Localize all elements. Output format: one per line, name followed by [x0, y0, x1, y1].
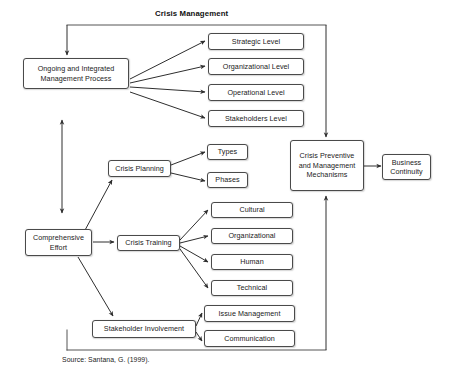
arrow-planning-to-types — [171, 152, 205, 165]
arrow-comprehensive-to-planning — [84, 180, 112, 232]
arrow-ongoing-to-operational — [130, 87, 205, 92]
node-ongoing-process: Ongoing and Integrated Management Proces… — [23, 58, 129, 89]
arrow-planning-to-phases — [171, 173, 205, 181]
arrow-ongoing-to-strategic — [130, 41, 205, 79]
diagram-title: Crisis Management — [155, 9, 228, 18]
node-organizational-level: Organizational Level — [208, 58, 304, 75]
arrow-comprehensive-to-stakeholder — [78, 257, 113, 316]
node-human: Human — [211, 254, 293, 270]
node-crisis-planning: Crisis Planning — [108, 160, 171, 177]
node-strategic-level: Strategic Level — [208, 33, 304, 50]
node-operational-level: Operational Level — [208, 84, 304, 101]
node-issue-management: Issue Management — [204, 305, 295, 322]
arrow-stakeholder-to-issue — [196, 313, 202, 326]
node-stakeholder-involvement: Stakeholder Involvement — [92, 320, 196, 338]
arrow-training-to-organizational — [180, 236, 208, 243]
node-crisis-training: Crisis Training — [117, 235, 180, 251]
node-comprehensive-effort: Comprehensive Effort — [25, 229, 92, 256]
node-stakeholders-level: Stakeholders Level — [208, 110, 304, 127]
node-business-continuity: Business Continuity — [382, 154, 431, 180]
arrow-training-to-technical — [180, 249, 208, 288]
arrow-ongoing-to-organizational — [130, 66, 205, 83]
arrow-training-to-cultural — [180, 210, 208, 240]
arrow-stakeholder-to-communication — [196, 332, 202, 341]
source-citation: Source: Santana, G. (1999). — [62, 356, 150, 363]
node-crisis-mechanisms: Crisis Preventive and Management Mechani… — [290, 140, 364, 191]
diagram-canvas: Crisis Management Ongoing and Integrated… — [0, 0, 455, 381]
node-communication: Communication — [204, 330, 295, 347]
node-phases: Phases — [207, 172, 248, 188]
node-cultural: Cultural — [211, 202, 293, 218]
node-types: Types — [207, 144, 248, 160]
node-technical: Technical — [211, 280, 293, 296]
arrow-ongoing-to-stakeholders — [130, 92, 205, 118]
node-organizational: Organizational — [211, 228, 293, 244]
